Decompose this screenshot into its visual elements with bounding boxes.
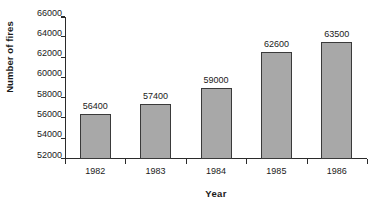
bar [321, 42, 352, 159]
bar-group: 57400 [140, 17, 171, 159]
x-axis-tick-label: 1983 [125, 166, 185, 176]
bar-group: 56400 [80, 17, 111, 159]
plot-area: 5640057400590006260063500 [65, 17, 367, 159]
y-axis-tick-label: 52000 [22, 151, 62, 160]
x-axis-tick-mark [65, 159, 66, 164]
bar-chart-figure: Number of fires 520005400056000580006000… [0, 0, 378, 214]
x-axis-tick-label: 1982 [65, 166, 125, 176]
bars-layer: 5640057400590006260063500 [65, 17, 367, 159]
x-axis-tick-label: 1986 [307, 166, 367, 176]
y-axis-tick-label: 60000 [22, 69, 62, 78]
bar-group: 63500 [321, 17, 352, 159]
x-axis-tick-mark [246, 159, 247, 164]
bar [201, 88, 232, 159]
x-axis-tick-mark [367, 159, 368, 164]
bar-group: 62600 [261, 17, 292, 159]
y-axis-title: Number of fires [4, 2, 18, 112]
bar [80, 114, 111, 159]
x-axis-tick-mark [125, 159, 126, 164]
bar-group: 59000 [201, 17, 232, 159]
bar [140, 104, 171, 159]
bar-value-label: 62600 [264, 40, 289, 49]
y-axis-tick-label: 62000 [22, 49, 62, 58]
x-axis-tick-label-group: 19821983198419851986 [65, 166, 367, 178]
x-axis-tick-mark [307, 159, 308, 164]
bar-value-label: 63500 [324, 30, 349, 39]
y-axis-tick-label: 54000 [22, 130, 62, 139]
x-axis-title: Year [65, 188, 367, 199]
x-axis-tick-mark [186, 159, 187, 164]
bar-value-label: 56400 [83, 102, 108, 111]
y-axis-tick-label: 66000 [22, 9, 62, 18]
x-axis-tick-label: 1984 [186, 166, 246, 176]
bar-value-label: 59000 [203, 76, 228, 85]
y-axis-tick-label: 56000 [22, 110, 62, 119]
y-axis-tick-label: 64000 [22, 29, 62, 38]
bar [261, 52, 292, 160]
bar-value-label: 57400 [143, 92, 168, 101]
y-axis-tick-label: 58000 [22, 90, 62, 99]
x-axis-tick-label: 1985 [246, 166, 306, 176]
y-axis-tick-label-group: 5200054000560005800060000620006400066000 [22, 13, 62, 155]
